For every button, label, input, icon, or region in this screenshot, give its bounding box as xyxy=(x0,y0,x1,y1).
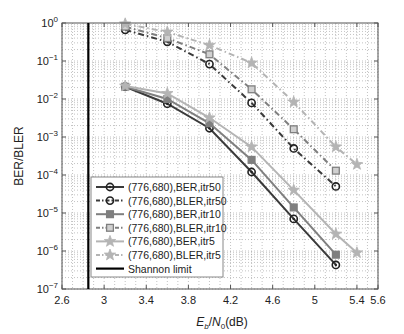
circle-marker-dot xyxy=(335,264,337,266)
legend: (776,680),BER,itr50(776,680),BLER,itr50(… xyxy=(91,177,227,277)
x-label-unit: (dB) xyxy=(225,315,248,329)
square-marker xyxy=(206,51,213,58)
square-marker xyxy=(248,86,255,93)
x-tick-label: 3 xyxy=(101,294,107,306)
y-tick-label: 10−2 xyxy=(37,91,59,105)
y-tick-label: 10−7 xyxy=(37,281,59,295)
x-tick-label: 4.6 xyxy=(265,294,280,306)
legend-label: (776,680),BLER,itr5 xyxy=(128,249,221,261)
legend-label: (776,680),BLER,itr10 xyxy=(128,222,227,234)
square-marker xyxy=(290,126,297,133)
square-marker xyxy=(332,251,339,258)
star-marker xyxy=(288,96,299,107)
legend-label: (776,680),BER,itr10 xyxy=(128,208,221,220)
legend-label: (776,680),BER,itr5 xyxy=(128,235,215,247)
y-tick-label: 10−5 xyxy=(37,205,59,219)
legend-label: Shannon limit xyxy=(128,263,192,275)
x-tick-label: 3.8 xyxy=(181,294,196,306)
ber-bler-chart: 2.633.43.84.24.655.45.610−710−610−510−41… xyxy=(0,0,404,334)
y-tick-label: 100 xyxy=(41,15,58,29)
star-marker xyxy=(204,39,215,50)
circle-marker-dot xyxy=(250,171,252,173)
square-marker xyxy=(107,224,114,231)
x-tick-label: 5 xyxy=(312,294,318,306)
square-marker xyxy=(107,211,114,218)
y-tick-label: 10−3 xyxy=(37,129,59,143)
x-label-N: N xyxy=(212,315,221,329)
y-axis-label: BER/BLER xyxy=(12,126,26,186)
legend-label: (776,680),BER,itr50 xyxy=(128,181,221,193)
circle-marker-dot xyxy=(293,218,295,220)
y-tick-label: 10−4 xyxy=(37,167,59,181)
circle-marker-dot xyxy=(109,186,111,188)
x-tick-label: 5.6 xyxy=(370,294,385,306)
x-tick-label: 3.4 xyxy=(139,294,154,306)
circle-marker-dot xyxy=(208,127,210,129)
y-tick-label: 10−1 xyxy=(37,53,59,67)
x-tick-label: 5.4 xyxy=(349,294,364,306)
legend-label: (776,680),BLER,itr50 xyxy=(128,195,227,207)
square-marker xyxy=(290,204,297,211)
x-tick-label: 4.2 xyxy=(223,294,238,306)
square-marker xyxy=(248,156,255,163)
x-axis-label: Eb/N0(dB) xyxy=(196,315,248,331)
square-marker xyxy=(332,167,339,174)
x-tick-label: 2.6 xyxy=(54,294,69,306)
y-tick-label: 10−6 xyxy=(37,243,59,257)
